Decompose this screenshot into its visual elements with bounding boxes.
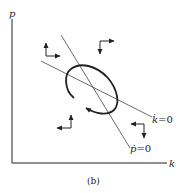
phase-diagram: p k k̇=0 ṗ=0 (b)	[0, 0, 188, 193]
figure-caption: (b)	[87, 176, 100, 186]
direction-arrows-lower-left	[57, 115, 71, 128]
p-dot-zero-locus	[61, 35, 130, 148]
k-axis-label: k	[169, 158, 175, 169]
direction-arrows-upper-right	[100, 41, 114, 54]
k-dot-zero-label: k̇=0	[152, 114, 173, 125]
p-axis-label: p	[9, 8, 16, 19]
direction-arrows-lower-right	[131, 124, 144, 138]
p-dot-zero-label: ṗ=0	[130, 143, 151, 154]
direction-arrows-upper-left	[46, 43, 60, 56]
cycle-trajectory	[66, 65, 117, 113]
